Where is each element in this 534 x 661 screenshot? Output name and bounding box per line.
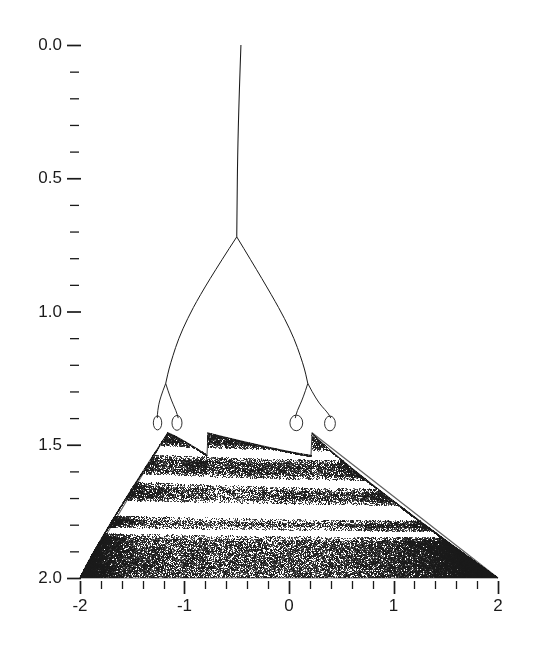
bifurcation-plot-canvas <box>0 0 534 661</box>
x-tick-label: 0 <box>269 596 309 616</box>
y-tick-label: 1.5 <box>18 435 62 455</box>
bifurcation-figure: 0.00.51.01.52.0 -2-1012 <box>0 0 534 661</box>
x-tick-label: -1 <box>165 596 205 616</box>
x-tick-label: -2 <box>60 596 100 616</box>
y-tick-label: 2.0 <box>18 568 62 588</box>
y-tick-label: 0.0 <box>18 35 62 55</box>
x-tick-label: 2 <box>478 596 518 616</box>
y-tick-label: 1.0 <box>18 302 62 322</box>
x-tick-label: 1 <box>374 596 414 616</box>
y-tick-label: 0.5 <box>18 168 62 188</box>
